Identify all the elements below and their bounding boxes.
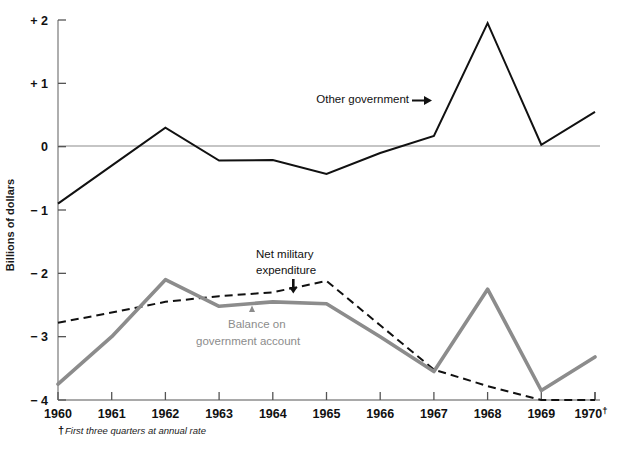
series-label-other-government: Other government (316, 93, 409, 105)
series-label-net-military-line2: expenditure (256, 264, 316, 276)
series-label-balance-line2: government account (196, 335, 301, 347)
x-axis-tick-label: 1966 (366, 407, 394, 421)
series-line-0 (58, 23, 595, 204)
footnote-text: First three quarters at annual rate (65, 425, 206, 436)
y-axis-title: Billions of dollars (4, 179, 16, 271)
y-axis-tick-label: + 2 (30, 14, 48, 28)
data-series-layer (58, 23, 595, 400)
annotation-other-government: Other government (316, 93, 432, 105)
y-axis-tick-label: − 3 (30, 330, 48, 344)
y-axis-tick-labels: + 2+ 10− 1− 2− 3− 4 (30, 14, 48, 408)
y-axis-tick-label: + 1 (30, 77, 48, 91)
x-axis-tick-label: 1967 (420, 407, 448, 421)
arrow-down-icon (289, 279, 298, 294)
footnote: † First three quarters at annual rate (58, 424, 206, 436)
annotation-net-military-expenditure: Net military expenditure (256, 248, 316, 294)
x-axis-tick-label: 1963 (205, 407, 233, 421)
arrow-up-icon (249, 306, 255, 313)
x-axis-tick-dagger: † (602, 405, 607, 416)
arrow-right-icon (412, 96, 432, 105)
footnote-dagger-symbol: † (58, 424, 64, 436)
x-axis-tick-label: 1965 (313, 407, 341, 421)
x-axis-tick-label: 1964 (259, 407, 287, 421)
y-axis-ticks (58, 20, 66, 400)
x-axis-tick-label: 1961 (98, 407, 126, 421)
line-chart: + 2+ 10− 1− 2− 3− 4 19601961196219631964… (0, 0, 618, 450)
x-axis-tick-label: 1970† (574, 405, 607, 421)
y-axis-tick-label: 0 (41, 140, 48, 154)
y-axis-tick-label: − 4 (30, 394, 48, 408)
series-label-net-military-line1: Net military (256, 248, 314, 260)
series-line-2 (58, 280, 595, 391)
x-axis-tick-label: 1960 (44, 407, 72, 421)
annotation-balance-government-account: Balance on government account (196, 306, 301, 348)
x-axis-tick-label: 1968 (474, 407, 502, 421)
y-axis-tick-label: − 2 (30, 267, 48, 281)
series-label-balance-line1: Balance on (228, 318, 286, 330)
x-axis-tick-label: 1962 (151, 407, 179, 421)
figure-container: + 2+ 10− 1− 2− 3− 4 19601961196219631964… (0, 0, 618, 450)
x-axis-tick-label: 1969 (527, 407, 555, 421)
y-axis-tick-label: − 1 (30, 204, 48, 218)
x-axis-tick-labels: 1960196119621963196419651966196719681969… (44, 405, 607, 421)
